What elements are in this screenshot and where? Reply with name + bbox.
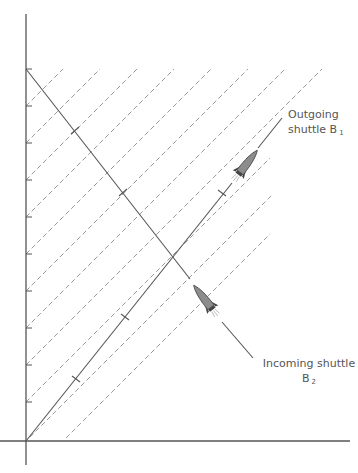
worldline-b2 <box>26 69 253 358</box>
outgoing-shuttle-label: Outgoing shuttle B1 <box>288 107 344 141</box>
outgoing-subscript: 1 <box>339 129 343 137</box>
spacetime-diagram <box>0 0 358 473</box>
outgoing-label-line1: Outgoing <box>288 107 344 122</box>
rocket-b1-icon <box>228 146 263 185</box>
incoming-subscript: 2 <box>312 378 316 386</box>
incoming-label-line1: Incoming shuttle <box>259 356 358 371</box>
time-axis-ticks <box>26 69 32 402</box>
axes <box>0 14 350 465</box>
incoming-shuttle-label: Incoming shuttle B2 <box>259 356 358 390</box>
outgoing-label-line2: shuttle B1 <box>288 122 344 141</box>
rocket-b2-icon <box>188 281 223 320</box>
incoming-label-line2: B2 <box>259 371 358 390</box>
